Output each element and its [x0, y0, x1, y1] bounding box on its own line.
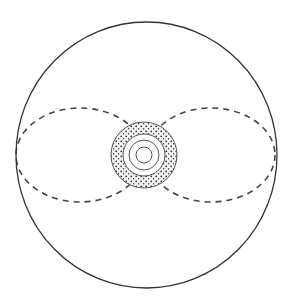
core	[111, 122, 177, 188]
sphere-diagram	[0, 0, 292, 300]
